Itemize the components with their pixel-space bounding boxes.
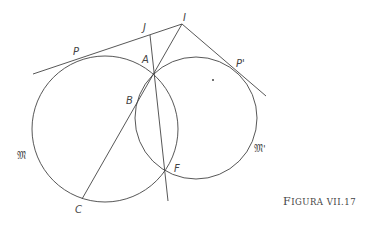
label-p-prime: P'	[236, 58, 245, 69]
center-dot	[212, 79, 214, 81]
line-a-c	[82, 73, 154, 199]
label-i: I	[183, 12, 186, 23]
figure-caption: FIGURA VII.17	[283, 195, 356, 208]
label-circle-m-prime: 𝔐'	[254, 143, 266, 154]
label-b: B	[126, 95, 133, 106]
line-i-a	[154, 24, 182, 73]
label-j: J	[141, 22, 146, 33]
label-f: F	[174, 163, 180, 174]
label-a: A	[141, 54, 149, 65]
tangent-line-ip	[33, 24, 182, 74]
line-j-f	[150, 35, 168, 201]
label-circle-m: 𝔐	[17, 150, 26, 161]
label-c: C	[75, 204, 82, 215]
geometry-figure: P J I A B P' F C 𝔐 𝔐' FIGURA VII.17	[0, 0, 366, 229]
circle-m	[32, 56, 178, 202]
label-p: P	[73, 46, 80, 57]
tangent-line-ip-prime	[182, 24, 266, 96]
circle-m-prime	[135, 57, 257, 179]
